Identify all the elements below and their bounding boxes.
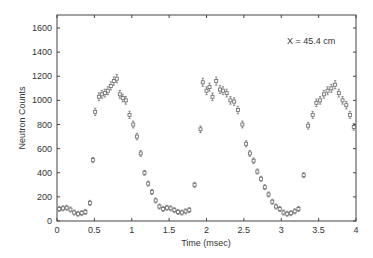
y-tick-label: 1000: [32, 95, 52, 105]
y-tick-label: 1200: [32, 71, 52, 81]
x-tick-label: 2.5: [238, 225, 251, 235]
data-point: [297, 206, 300, 211]
data-point: [215, 77, 218, 85]
data-point: [169, 206, 172, 211]
data-point: [112, 77, 115, 85]
data-point: [245, 141, 248, 147]
x-tick-label: 0.5: [88, 225, 101, 235]
data-point: [278, 206, 281, 211]
data-point: [241, 121, 244, 128]
data-point: [315, 99, 318, 107]
data-point: [349, 111, 352, 118]
y-tick-label: 400: [37, 168, 52, 178]
data-point: [147, 181, 150, 186]
data-point: [236, 106, 239, 113]
data-point: [225, 89, 228, 97]
data-point: [139, 151, 142, 157]
y-tick-label: 0: [47, 216, 52, 226]
x-tick-label: 1: [129, 225, 134, 235]
data-points: [58, 75, 356, 217]
data-point: [103, 89, 106, 97]
data-point: [334, 81, 337, 89]
x-axis-ticks: 00.511.522.533.54: [54, 15, 358, 235]
data-point: [319, 97, 322, 105]
data-point: [61, 206, 64, 211]
data-point: [91, 157, 94, 162]
y-axis-title: Neutron Counts: [17, 86, 27, 150]
data-point: [143, 170, 146, 175]
data-point: [69, 207, 72, 212]
data-point: [97, 93, 100, 101]
x-tick-label: 0: [54, 225, 59, 235]
data-point: [184, 209, 187, 214]
data-point: [271, 199, 274, 204]
data-point: [252, 158, 255, 163]
data-point: [180, 210, 183, 215]
data-point: [267, 192, 270, 197]
data-point: [201, 78, 204, 86]
data-point: [341, 97, 344, 105]
data-point: [256, 169, 259, 174]
data-point: [322, 90, 325, 98]
data-point: [73, 210, 76, 215]
x-tick-label: 4: [353, 225, 358, 235]
x-tick-label: 1.5: [163, 225, 176, 235]
data-point: [88, 200, 91, 205]
position-annotation: X = 45.4 cm: [287, 36, 335, 46]
data-point: [282, 210, 285, 215]
data-point: [150, 190, 153, 195]
data-point: [229, 97, 232, 105]
data-point: [154, 198, 157, 203]
data-point: [118, 90, 121, 98]
data-point: [132, 121, 135, 128]
data-point: [115, 75, 118, 83]
data-point: [135, 133, 138, 139]
data-point: [218, 86, 221, 94]
data-point: [337, 89, 340, 97]
data-point: [173, 208, 176, 213]
x-tick-label: 2: [204, 225, 209, 235]
data-point: [211, 93, 214, 101]
data-point: [302, 173, 305, 178]
data-point: [275, 204, 278, 209]
data-point: [307, 122, 310, 129]
data-point: [76, 211, 79, 216]
data-point: [260, 176, 263, 181]
data-point: [289, 211, 292, 216]
data-point: [165, 205, 168, 210]
data-point: [158, 204, 161, 209]
data-point: [221, 87, 224, 95]
y-tick-label: 200: [37, 192, 52, 202]
data-point: [311, 111, 314, 118]
x-tick-label: 3.5: [312, 225, 325, 235]
data-point: [106, 87, 109, 95]
data-point: [248, 151, 251, 157]
x-axis-title: Time (msec): [181, 238, 231, 248]
data-point: [128, 111, 131, 118]
data-point: [94, 108, 97, 115]
data-point: [100, 90, 103, 98]
y-tick-label: 800: [37, 120, 52, 130]
data-point: [286, 211, 289, 216]
y-tick-label: 600: [37, 144, 52, 154]
data-point: [109, 82, 112, 90]
data-point: [162, 206, 165, 211]
data-point: [199, 126, 202, 133]
y-tick-label: 1400: [32, 47, 52, 57]
data-point: [330, 84, 333, 92]
data-point: [177, 209, 180, 214]
data-point: [58, 206, 61, 211]
data-point: [124, 97, 127, 105]
data-point: [80, 211, 83, 216]
data-point: [326, 87, 329, 95]
x-tick-label: 3: [279, 225, 284, 235]
data-point: [208, 83, 211, 91]
data-point: [84, 209, 87, 214]
data-point: [233, 98, 236, 106]
y-tick-label: 1600: [32, 23, 52, 33]
data-point: [263, 185, 266, 190]
data-point: [293, 209, 296, 214]
data-point: [65, 205, 68, 210]
data-point: [345, 101, 348, 108]
data-point: [121, 94, 124, 102]
